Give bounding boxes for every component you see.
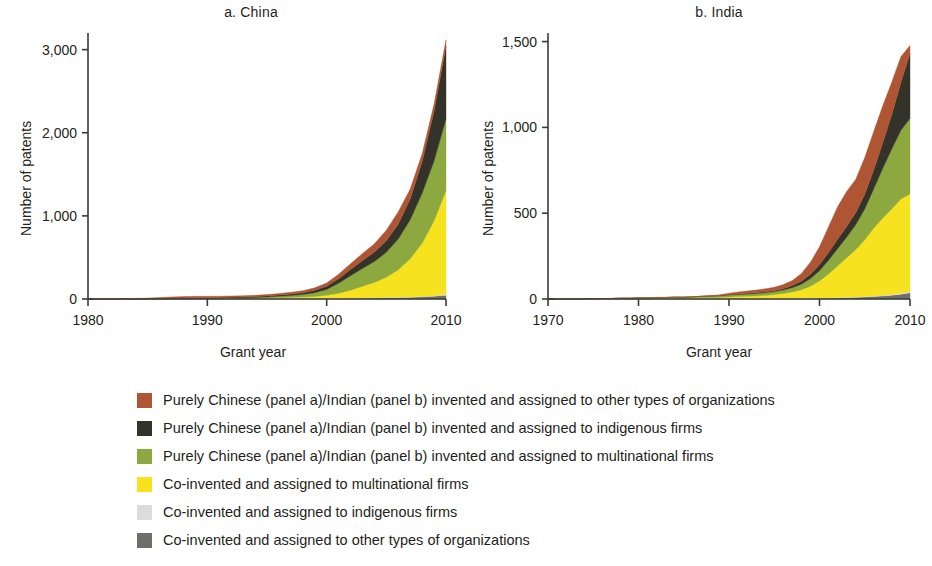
legend-label: Co-invented and assigned to indigenous f…: [163, 505, 457, 520]
legend-label: Purely Chinese (panel a)/Indian (panel b…: [163, 421, 702, 436]
y-axis-label-india: Number of patents: [480, 121, 496, 236]
y-tick-label: 1,500: [502, 34, 537, 50]
legend-label: Co-invented and assigned to other types …: [163, 533, 530, 548]
x-tick-label: 1990: [713, 312, 744, 328]
legend-item: Co-invented and assigned to other types …: [137, 526, 927, 554]
x-axis-label-india: Grant year: [486, 344, 932, 360]
y-tick-label: 0: [529, 291, 537, 307]
legend-item: Purely Chinese (panel a)/Indian (panel b…: [137, 414, 927, 442]
y-tick-label: 500: [514, 205, 538, 221]
x-tick-label: 2010: [430, 312, 461, 328]
y-tick-label: 1,000: [502, 119, 537, 135]
figure-container: a. China 01,0002,0003,000198019902000201…: [0, 0, 932, 566]
legend-swatch-icon: [137, 533, 152, 548]
legend-swatch-icon: [137, 477, 152, 492]
chart-india: 05001,0001,50019701980199020002010: [466, 0, 932, 380]
legend-swatch-icon: [137, 505, 152, 520]
panel-china: a. China 01,0002,0003,000198019902000201…: [0, 0, 466, 380]
panels-row: a. China 01,0002,0003,000198019902000201…: [0, 0, 932, 380]
legend-label: Purely Chinese (panel a)/Indian (panel b…: [163, 393, 775, 408]
x-tick-label: 1980: [623, 312, 654, 328]
area-series: [88, 119, 446, 299]
legend-item: Purely Chinese (panel a)/Indian (panel b…: [137, 386, 927, 414]
x-tick-label: 1980: [72, 312, 103, 328]
chart-legend: Purely Chinese (panel a)/Indian (panel b…: [137, 386, 927, 554]
y-axis-label-china: Number of patents: [18, 121, 34, 236]
x-tick-label: 2000: [311, 312, 342, 328]
y-tick-label: 2,000: [42, 125, 77, 141]
legend-swatch-icon: [137, 393, 152, 408]
chart-china: 01,0002,0003,0001980199020002010: [0, 0, 466, 380]
x-axis-label-china: Grant year: [20, 344, 486, 360]
legend-item: Purely Chinese (panel a)/Indian (panel b…: [137, 442, 927, 470]
legend-item: Co-invented and assigned to multinationa…: [137, 470, 927, 498]
y-tick-label: 0: [69, 291, 77, 307]
y-tick-label: 1,000: [42, 208, 77, 224]
legend-swatch-icon: [137, 421, 152, 436]
legend-label: Purely Chinese (panel a)/Indian (panel b…: [163, 449, 714, 464]
x-tick-label: 2000: [804, 312, 835, 328]
x-tick-label: 2010: [894, 312, 925, 328]
legend-swatch-icon: [137, 449, 152, 464]
x-tick-label: 1970: [532, 312, 563, 328]
x-tick-label: 1990: [192, 312, 223, 328]
y-tick-label: 3,000: [42, 42, 77, 58]
legend-label: Co-invented and assigned to multinationa…: [163, 477, 468, 492]
panel-india: b. India 05001,0001,50019701980199020002…: [466, 0, 932, 380]
legend-item: Co-invented and assigned to indigenous f…: [137, 498, 927, 526]
